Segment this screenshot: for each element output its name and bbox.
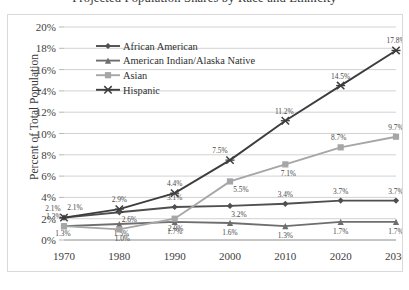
x-tick-label: 2020	[330, 250, 353, 262]
y-axis-title: Percent of Total Population	[28, 27, 40, 207]
data-value-label: 1.0%	[115, 234, 130, 243]
data-value-label: 11.2%	[275, 107, 294, 116]
data-value-label: 14.5%	[331, 72, 350, 81]
data-value-label: 1.7%	[333, 227, 348, 236]
data-point-square	[282, 161, 288, 167]
data-point-square	[227, 178, 233, 184]
data-value-label: 1.7%	[388, 227, 402, 236]
y-tick-label: 4%	[41, 191, 56, 203]
data-point-cross	[336, 82, 345, 89]
data-value-label: 5.5%	[233, 185, 248, 194]
data-value-label: 1.6%	[222, 228, 237, 237]
data-value-label: 8.7%	[331, 133, 346, 142]
data-value-label: 17.8%	[386, 36, 402, 45]
legend-item-american-indian-alaska-native[interactable]: American Indian/Alaska Native	[96, 55, 256, 66]
data-value-label: 4.4%	[167, 179, 182, 188]
data-point-diamond	[172, 204, 178, 210]
x-tick-label: 2030	[385, 250, 402, 262]
legend-item-asian[interactable]: Asian	[96, 70, 148, 81]
data-value-label: 9.7%	[388, 123, 402, 132]
data-point-diamond	[338, 197, 344, 203]
data-value-label: 1.3%	[46, 212, 61, 221]
y-tick-label: 8%	[41, 149, 56, 161]
legend-label: Asian	[123, 70, 148, 81]
data-value-label: 7.1%	[281, 169, 296, 178]
y-tick-label: 6%	[41, 170, 56, 182]
y-tick-label: 0%	[41, 234, 56, 246]
legend-item-african-american[interactable]: African American	[96, 41, 199, 52]
data-point-square	[393, 134, 399, 140]
data-point-cross	[281, 117, 290, 124]
data-point-cross	[104, 86, 113, 93]
data-value-label: 3.7%	[388, 187, 402, 196]
data-point-square	[172, 216, 178, 222]
data-point-diamond	[393, 197, 399, 203]
plot-frame: Percent of Total Population 0%2%4%6%8%10…	[7, 14, 403, 272]
data-value-label: 2.9%	[112, 195, 127, 204]
legend-item-hispanic[interactable]: Hispanic	[96, 85, 160, 96]
chart-title: Projected Population Shares by Race and …	[0, 0, 409, 6]
data-value-label: 1.3%	[55, 229, 70, 238]
data-point-square	[105, 72, 111, 78]
data-point-square	[338, 144, 344, 150]
x-tick-label: 1970	[53, 250, 76, 262]
data-point-diamond	[227, 203, 233, 209]
x-tick-label: 1990	[164, 250, 187, 262]
legend-label: Hispanic	[123, 85, 160, 96]
data-value-label: 3.2%	[231, 210, 246, 219]
x-tick-label: 1980	[108, 250, 131, 262]
line-chart-plot: 0%2%4%6%8%10%12%14%16%18%20%197019801990…	[8, 15, 402, 271]
legend-label: American Indian/Alaska Native	[123, 55, 256, 66]
data-point-cross	[226, 156, 235, 163]
data-point-square	[116, 226, 122, 232]
data-value-label: 7.5%	[212, 146, 227, 155]
chart-figure: Projected Population Shares by Race and …	[0, 0, 409, 290]
data-point-diamond	[282, 201, 288, 207]
x-tick-label: 2000	[219, 250, 242, 262]
data-value-label: 2.0%	[168, 224, 183, 233]
x-tick-label: 2010	[274, 250, 297, 262]
data-value-label: 1.3%	[278, 231, 293, 240]
legend-label: African American	[123, 41, 199, 52]
data-point-cross	[392, 47, 401, 54]
data-value-label: 3.7%	[333, 187, 348, 196]
data-value-label: 2.1%	[67, 203, 82, 212]
data-value-label: 3.4%	[278, 190, 293, 199]
